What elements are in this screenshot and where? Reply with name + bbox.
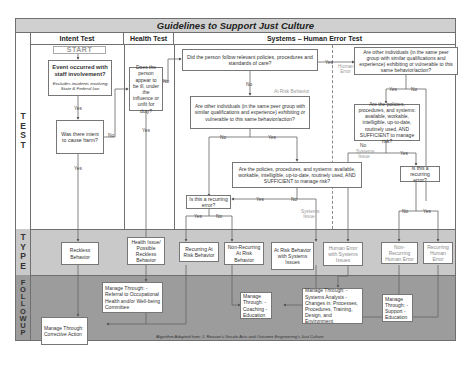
type-recurring-human-error: Recurring Human Error	[423, 242, 453, 264]
edge-label-systems-issue: Systems Issue	[301, 209, 317, 219]
edge-label-yes: Yes	[389, 87, 397, 92]
systems-sufficient-box-left: Are the policies, procedures, and system…	[232, 162, 362, 188]
column-divider-dashed	[332, 45, 333, 229]
flowchart-frame: Guidelines to Support Just Culture Inten…	[15, 18, 456, 341]
policies-followed-box: Did the person follow relevant policies,…	[182, 49, 318, 71]
followup-systems-analysis: Manage Through: -Systems Analysis -Chang…	[302, 288, 363, 324]
type-human-error-with-systems: Human Error with Systems Issues	[323, 242, 363, 266]
column-header-intent: Intent Test	[31, 33, 124, 45]
edge-label-yes: Yes	[423, 209, 431, 214]
edge-label-yes: Yes	[74, 106, 82, 111]
type-recurring-at-risk: Recurring At Risk Behavior	[179, 242, 219, 262]
row-label-test: T E S T	[16, 33, 31, 229]
edge-label-systems-issue: Systems Issue	[356, 149, 372, 159]
event-occurred-text: Event occurred with staff involvement?	[51, 64, 109, 78]
column-header-health: Health Test	[124, 33, 174, 45]
edge-label-yes: Yes	[268, 135, 276, 140]
event-occurred-box: Event occurred with staff involvement? E…	[48, 60, 112, 96]
edge-label-no: No	[108, 133, 114, 138]
row-label-type: T Y P E	[16, 229, 31, 275]
attribution-note: Algorithm Adapted from: J. Reason's Unsa…	[156, 334, 324, 339]
edge-label-no: No	[246, 82, 252, 87]
column-divider	[174, 45, 175, 229]
edge-label-no: No	[220, 135, 226, 140]
edge-label-yes: Yes	[256, 197, 264, 202]
edge-label-no: No	[402, 209, 408, 214]
edge-label-no: No	[411, 87, 417, 92]
type-health-issue: Health Issue/ Possible Reckless Behavior	[127, 237, 165, 265]
followup-coaching-education: Manage Through: -Coaching -Education	[240, 292, 272, 319]
column-divider	[124, 45, 125, 229]
followup-corrective-action: Manage Through: Corrective Action	[41, 317, 88, 345]
type-at-risk-with-systems: At Risk Behavior with Systems Issues	[271, 242, 314, 270]
health-fitness-box: Does the person appear to be ill, under …	[129, 67, 163, 111]
followup-occupational-health: Manage Through: -Referral to Occupationa…	[102, 282, 163, 313]
followup-support-education: Manage Through: -Support -Education	[382, 294, 413, 322]
edge-label-yes: Yes	[142, 128, 150, 133]
edge-label-no: No	[360, 143, 366, 148]
peer-group-box-right: Are other individuals (in the same peer …	[354, 47, 458, 75]
edge-label-yes: Yes	[194, 214, 202, 219]
intent-to-harm-box: Was there intent to cause harm?	[56, 120, 104, 154]
type-nonrecurring-human-error: Non-Recurring Human Error	[381, 242, 418, 264]
event-note-text: Excludes incidents involving State & Fed…	[51, 81, 109, 92]
peer-group-box-left: Are other individuals (in the same peer …	[190, 96, 310, 129]
edge-label-no: No	[216, 214, 222, 219]
diagram-title: Guidelines to Support Just Culture	[16, 19, 455, 33]
column-header-systems: Systems – Human Error Test	[174, 33, 455, 45]
recurring-error-box-right: Is this a recurring error?	[400, 166, 440, 182]
edge-label-at-risk-behavior: At Risk Behavior	[274, 89, 309, 94]
type-nonrecurring-at-risk: Non-Recurring At Risk Behavior	[224, 242, 264, 265]
row-label-followup: F O L L O W U P	[16, 275, 31, 340]
edge-label-no: No	[291, 197, 297, 202]
systems-sufficient-box-right: Are the policies, procedures, and system…	[354, 104, 420, 141]
edge-label-human-error: Human Error	[338, 64, 353, 74]
start-node: START	[53, 46, 106, 54]
edge-label-yes: Yes	[400, 151, 408, 156]
edge-label-yes: Yes	[74, 166, 82, 171]
recurring-error-box-left: Is this a recurring error?	[186, 195, 231, 209]
edge-label-yes: Yes	[325, 60, 333, 65]
edge-label-no: No	[163, 79, 169, 84]
type-reckless-behavior: Reckless Behavior	[61, 242, 99, 265]
